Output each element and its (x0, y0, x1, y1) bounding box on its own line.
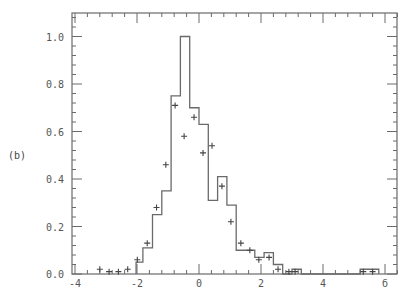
plus-marker (144, 240, 150, 246)
plus-marker (275, 266, 281, 272)
plus-marker (163, 162, 169, 168)
x-tick-label: 4 (320, 278, 326, 289)
plus-marker (181, 133, 187, 139)
plus-marker (266, 254, 272, 260)
plus-marker (200, 150, 206, 156)
plot-frame (72, 13, 397, 274)
y-tick-label: 0.8 (46, 79, 64, 90)
plus-marker (172, 102, 178, 108)
y-tick-label: 0.2 (46, 222, 64, 233)
histogram-path (136, 37, 379, 275)
y-tick-label: 0.0 (46, 269, 64, 280)
plus-marker (191, 114, 197, 120)
plus-marker (209, 143, 215, 149)
plus-marker (219, 183, 225, 189)
x-tick-label: 0 (196, 278, 202, 289)
plus-marker (97, 266, 103, 272)
x-tick-label: -4 (69, 278, 81, 289)
x-tick-label: б (382, 278, 388, 289)
y-tick-label: 0.4 (46, 174, 64, 185)
plus-marker (238, 240, 244, 246)
x-tick-label: 2 (258, 278, 264, 289)
histogram-steps (136, 37, 379, 275)
plot-border (72, 13, 397, 274)
plus-marker (247, 247, 253, 253)
histogram-chart: -4-2024б0.00.20.40.60.81.0 (0, 0, 408, 294)
plus-marker (228, 219, 234, 225)
y-tick-label: 1.0 (46, 32, 64, 43)
axis-ticks (72, 13, 397, 274)
plus-marker (125, 266, 131, 272)
axis-tick-labels: -4-2024б0.00.20.40.60.81.0 (46, 32, 388, 290)
plus-marker (154, 205, 160, 211)
x-tick-label: -2 (131, 278, 143, 289)
y-tick-label: 0.6 (46, 127, 64, 138)
